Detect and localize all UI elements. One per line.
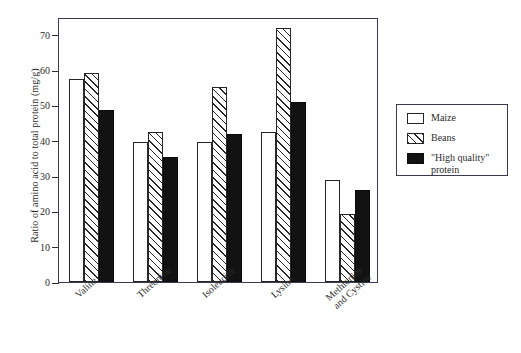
y-axis-tick-label-text: 10 — [20, 243, 50, 253]
legend-label: Maize — [431, 112, 456, 124]
bar-hq-0 — [99, 110, 114, 282]
bar-maize-0 — [69, 79, 84, 282]
y-axis-tick-label-text: 60 — [20, 66, 50, 76]
y-axis-tick-label: 30 — [16, 172, 50, 182]
legend-label: "High quality" protein — [431, 152, 489, 175]
bar-beans-3 — [276, 28, 291, 282]
y-axis-tick-label-text: 40 — [20, 137, 50, 147]
y-axis-tick-label: 40 — [16, 137, 50, 147]
y-axis-tick-label: 10 — [16, 243, 50, 253]
bar-chart-figure: Ratio of amino acid to total protein (mg… — [0, 0, 521, 353]
legend-swatch-beans-icon — [407, 133, 424, 144]
y-axis-tick-label-text: 50 — [20, 101, 50, 111]
y-axis-tick-label: 70 — [16, 31, 50, 41]
y-axis-tick-label-text: 30 — [20, 172, 50, 182]
plot-area — [58, 18, 378, 283]
bar-maize-3 — [261, 132, 276, 282]
y-axis-tick-label: 50 — [16, 101, 50, 111]
bar-hq-1 — [163, 157, 178, 282]
legend-swatch-hq-icon — [407, 153, 424, 164]
legend-item-maize: Maize — [407, 112, 456, 124]
chart-legend: MaizeBeans"High quality" protein — [396, 104, 508, 176]
bar-beans-1 — [148, 132, 163, 282]
y-axis-tick-label: 0 — [16, 278, 50, 288]
legend-swatch-maize-icon — [407, 113, 424, 124]
legend-label: Beans — [431, 132, 455, 144]
bar-beans-2 — [212, 87, 227, 282]
legend-item-beans: Beans — [407, 132, 455, 144]
bar-hq-3 — [291, 102, 306, 282]
bar-beans-0 — [84, 73, 99, 282]
y-axis-tick-label: 20 — [16, 207, 50, 217]
bar-hq-2 — [227, 134, 242, 282]
y-axis-tick-label-text: 20 — [20, 207, 50, 217]
y-axis-tick-label-text: 0 — [20, 278, 50, 288]
y-axis-tick-label: 60 — [16, 66, 50, 76]
bar-maize-2 — [197, 142, 212, 282]
legend-item-hq: "High quality" protein — [407, 152, 489, 175]
y-axis-tick-label-text: 70 — [20, 31, 50, 41]
bar-maize-1 — [133, 142, 148, 282]
bar-maize-4 — [325, 180, 340, 282]
